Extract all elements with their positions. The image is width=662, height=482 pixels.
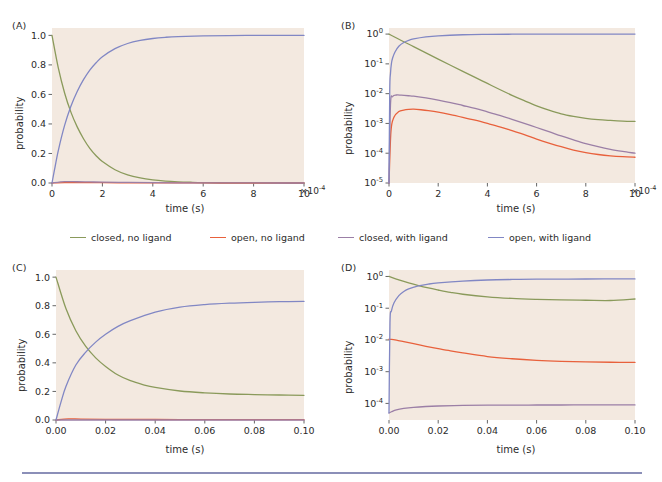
legend-item-1: open, no ligand (210, 232, 338, 243)
svg-text:0.00: 0.00 (45, 425, 66, 436)
panel-c-plot: 0.000.020.040.060.080.100.00.20.40.60.81… (0, 252, 331, 467)
svg-text:0.04: 0.04 (477, 425, 498, 436)
svg-text:10-1: 10-1 (364, 302, 383, 314)
svg-text:1.0: 1.0 (35, 272, 50, 283)
svg-text:0.0: 0.0 (31, 177, 46, 188)
legend-label-3: open, with ligand (509, 232, 591, 243)
svg-text:0.06: 0.06 (194, 425, 215, 436)
svg-text:10-4: 10-4 (364, 397, 383, 409)
svg-text:4: 4 (150, 188, 156, 199)
svg-text:0.08: 0.08 (244, 425, 265, 436)
svg-text:8: 8 (583, 188, 589, 199)
svg-text:0.04: 0.04 (145, 425, 166, 436)
svg-text:0.02: 0.02 (95, 425, 116, 436)
panel-b-plot: 024681010-510-410-310-210-1100 (331, 0, 662, 228)
svg-text:0: 0 (49, 188, 55, 199)
legend-item-3: open, with ligand (488, 232, 591, 243)
legend-item-2: closed, with ligand (338, 232, 488, 243)
svg-text:10-4: 10-4 (364, 147, 383, 159)
svg-text:100: 100 (367, 27, 383, 39)
panel-d: (D) probability time (s) 0.000.020.040.0… (331, 252, 662, 467)
svg-text:0.6: 0.6 (31, 89, 46, 100)
panel-c: (C) probability time (s) 0.000.020.040.0… (0, 252, 331, 467)
svg-text:0.2: 0.2 (31, 148, 46, 159)
panel-b-label: (B) (341, 20, 356, 31)
svg-text:0.08: 0.08 (575, 425, 596, 436)
svg-text:0.06: 0.06 (526, 425, 547, 436)
svg-text:2: 2 (99, 188, 105, 199)
svg-text:1.0: 1.0 (31, 30, 46, 41)
svg-text:100: 100 (367, 270, 383, 282)
figure-container: (A) probability time (s) ×10-4 02468100.… (0, 0, 662, 482)
panel-c-ylabel: probability (16, 339, 27, 392)
legend-line-icon-2 (338, 237, 354, 238)
svg-text:6: 6 (534, 188, 540, 199)
panel-a: (A) probability time (s) ×10-4 02468100.… (0, 0, 331, 228)
svg-text:0.02: 0.02 (428, 425, 449, 436)
svg-text:0.0: 0.0 (35, 414, 50, 425)
legend-line-icon-3 (488, 237, 504, 238)
panel-d-ylabel: probability (343, 341, 354, 394)
svg-text:8: 8 (251, 188, 257, 199)
svg-text:6: 6 (200, 188, 206, 199)
svg-text:10-3: 10-3 (364, 365, 383, 377)
svg-text:10-5: 10-5 (364, 176, 383, 188)
svg-text:2: 2 (435, 188, 441, 199)
panel-d-plot: 0.000.020.040.060.080.1010-410-310-210-1… (331, 252, 662, 467)
svg-text:0.8: 0.8 (31, 59, 46, 70)
svg-text:0.10: 0.10 (624, 425, 645, 436)
svg-text:10-2: 10-2 (364, 333, 383, 345)
svg-text:0.00: 0.00 (378, 425, 399, 436)
svg-text:10-1: 10-1 (364, 57, 383, 69)
panel-a-xlabel: time (s) (60, 203, 310, 214)
panel-a-mult-base: ×10 (300, 186, 319, 196)
svg-text:10-2: 10-2 (364, 87, 383, 99)
legend-line-icon-0 (70, 237, 86, 238)
svg-text:0.4: 0.4 (35, 357, 50, 368)
panel-a-mult-exp: -4 (319, 184, 325, 192)
panel-d-label: (D) (341, 262, 356, 273)
panel-a-x-multiplier: ×10-4 (300, 186, 325, 196)
panel-c-xlabel: time (s) (60, 444, 310, 455)
svg-text:0.4: 0.4 (31, 118, 46, 129)
panel-c-label: (C) (12, 262, 27, 273)
panel-a-ylabel: probability (14, 97, 25, 150)
panel-b: (B) probability time (s) ×10-4 024681010… (331, 0, 662, 228)
bottom-rule (22, 472, 642, 474)
svg-text:4: 4 (484, 188, 490, 199)
legend-item-0: closed, no ligand (70, 232, 210, 243)
panel-b-ylabel: probability (343, 102, 354, 155)
svg-text:0: 0 (386, 188, 392, 199)
panel-b-mult-base: ×10 (631, 186, 650, 196)
panel-b-x-multiplier: ×10-4 (631, 186, 656, 196)
panel-a-plot: 02468100.00.20.40.60.81.0 (0, 0, 331, 228)
panel-d-xlabel: time (s) (391, 444, 641, 455)
svg-text:10-3: 10-3 (364, 117, 383, 129)
svg-text:0.8: 0.8 (35, 300, 50, 311)
panel-a-label: (A) (12, 20, 27, 31)
legend-label-1: open, no ligand (231, 232, 305, 243)
panel-b-xlabel: time (s) (391, 203, 641, 214)
legend: closed, no ligand open, no ligand closed… (70, 232, 591, 243)
panel-b-mult-exp: -4 (650, 184, 656, 192)
svg-text:0.6: 0.6 (35, 329, 50, 340)
svg-text:0.2: 0.2 (35, 386, 50, 397)
legend-line-icon-1 (210, 237, 226, 238)
legend-label-2: closed, with ligand (359, 232, 448, 243)
legend-label-0: closed, no ligand (91, 232, 172, 243)
svg-text:0.10: 0.10 (293, 425, 314, 436)
